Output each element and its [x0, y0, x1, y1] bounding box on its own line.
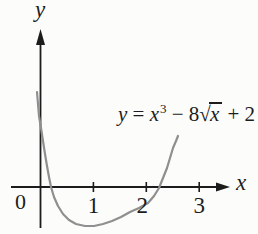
curve-equation-label: y = x3 − 8√x + 2	[118, 102, 255, 126]
x-tick-label-3: 3	[193, 194, 205, 217]
y-axis-label: y	[35, 0, 45, 22]
function-graph-figure: y x 0 123 y = x3 − 8√x + 2	[0, 0, 258, 234]
eq-base: x	[150, 102, 159, 126]
x-tick-label-1: 1	[88, 194, 100, 217]
origin-label: 0	[15, 190, 26, 213]
x-axis-arrowhead	[216, 183, 230, 192]
x-tick-label-2: 2	[137, 194, 149, 217]
eq-minus-coefficient: − 8	[167, 102, 200, 126]
eq-exponent: 3	[160, 101, 167, 116]
y-axis-arrowhead	[36, 29, 45, 45]
x-axis-label: x	[236, 171, 246, 195]
eq-lhs: y	[118, 102, 127, 126]
eq-equals-sign: =	[127, 102, 149, 126]
eq-tail: + 2	[222, 102, 255, 126]
eq-radicand: x	[209, 102, 222, 125]
